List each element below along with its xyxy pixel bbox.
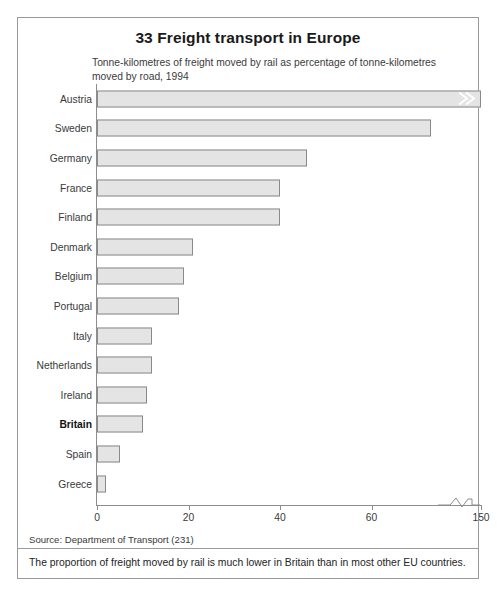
category-label-spain: Spain: [66, 448, 92, 459]
bar-portugal: [97, 297, 179, 314]
category-label-france: France: [60, 182, 92, 193]
x-tick-label-0: 0: [94, 512, 100, 523]
bar-row: Portugal: [18, 291, 478, 321]
bar-row: Germany: [18, 143, 478, 173]
bar-row: Italy: [18, 321, 478, 351]
x-tick-0: [97, 505, 98, 510]
bar-rows: AustriaSwedenGermanyFranceFinlandDenmark…: [18, 84, 478, 498]
figure-panel: 33 Freight transport in Europe Tonne-kil…: [17, 17, 479, 579]
bar-row: Greece: [18, 469, 478, 499]
bar-row: Denmark: [18, 232, 478, 262]
figure-subtitle: Tonne-kilometres of freight moved by rai…: [92, 56, 462, 84]
bar-row: France: [18, 173, 478, 203]
bar-row: Spain: [18, 439, 478, 469]
category-label-belgium: Belgium: [55, 271, 92, 282]
bar-row: Austria: [18, 84, 478, 114]
category-label-ireland: Ireland: [61, 389, 92, 400]
x-axis-line: [96, 505, 481, 506]
x-tick-60: [372, 505, 373, 510]
figure-title: 33 Freight transport in Europe: [18, 29, 478, 47]
category-label-austria: Austria: [60, 93, 92, 104]
category-label-italy: Italy: [73, 330, 92, 341]
footer-divider: [18, 548, 478, 549]
bar-netherlands: [97, 357, 152, 374]
bar-row: Netherlands: [18, 350, 478, 380]
category-label-denmark: Denmark: [50, 241, 92, 252]
bar-sweden: [97, 120, 431, 137]
bar-austria: [97, 90, 481, 107]
category-label-netherlands: Netherlands: [36, 360, 92, 371]
category-label-germany: Germany: [50, 152, 92, 163]
x-tick-label-40: 40: [274, 512, 285, 523]
bar-denmark: [97, 238, 193, 255]
bar-italy: [97, 327, 152, 344]
double-chevron-break-icon: [457, 92, 477, 106]
bar-row: Sweden: [18, 114, 478, 144]
bar-finland: [97, 209, 280, 226]
bar-row: Ireland: [18, 380, 478, 410]
bar-chart-plot-area: AustriaSwedenGermanyFranceFinlandDenmark…: [18, 84, 478, 522]
x-tick-label-150: 150: [472, 512, 489, 523]
bar-row: Britain: [18, 410, 478, 440]
x-tick-40: [280, 505, 281, 510]
bar-spain: [97, 445, 120, 462]
x-tick-label-20: 20: [183, 512, 194, 523]
bar-row: Finland: [18, 202, 478, 232]
axis-zigzag-break-icon: [438, 494, 480, 508]
bar-belgium: [97, 268, 184, 285]
bar-row: Belgium: [18, 262, 478, 292]
category-label-finland: Finland: [58, 212, 92, 223]
x-tick-20: [189, 505, 190, 510]
category-label-portugal: Portugal: [54, 300, 92, 311]
bar-france: [97, 179, 280, 196]
bar-greece: [97, 475, 106, 492]
footnote-text: The proportion of freight moved by rail …: [29, 556, 469, 570]
category-label-sweden: Sweden: [55, 123, 92, 134]
bar-germany: [97, 149, 307, 166]
bar-ireland: [97, 386, 147, 403]
x-tick-label-60: 60: [366, 512, 377, 523]
bar-britain: [97, 416, 143, 433]
category-label-greece: Greece: [58, 478, 92, 489]
source-note: Source: Department of Transport (231): [29, 534, 194, 545]
category-label-britain: Britain: [59, 419, 92, 430]
x-tick-150: [481, 505, 482, 510]
